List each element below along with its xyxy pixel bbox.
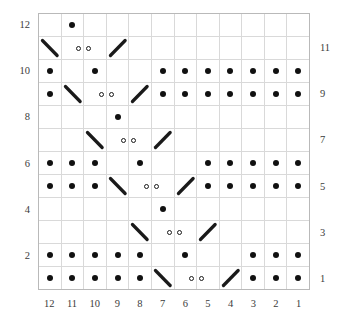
chart-cell-r12-c4[interactable]: [220, 14, 243, 37]
chart-cell-r4-c5[interactable]: [197, 198, 220, 221]
chart-cell-r5-c1[interactable]: [287, 175, 310, 198]
chart-cell-r6-c10[interactable]: [84, 152, 107, 175]
chart-cell-r4-c9[interactable]: [107, 198, 130, 221]
chart-cell-r2-c7[interactable]: [152, 244, 175, 267]
chart-cell-r9-c2[interactable]: [265, 83, 288, 106]
chart-cell-r8-c7[interactable]: [152, 106, 175, 129]
chart-cell-r12-c2[interactable]: [265, 14, 288, 37]
chart-cell-r11-c2[interactable]: [265, 37, 288, 60]
chart-cell-r10-c8[interactable]: [129, 60, 152, 83]
chart-cell-r3-c2[interactable]: [265, 221, 288, 244]
chart-cell-r12-c6[interactable]: [175, 14, 198, 37]
chart-cell-r4-c12[interactable]: [39, 198, 62, 221]
chart-cell-r8-c10[interactable]: [84, 106, 107, 129]
chart-cell-r9-c4[interactable]: [220, 83, 243, 106]
chart-cell-r10-c7[interactable]: [152, 60, 175, 83]
chart-cell-r7-c1[interactable]: [287, 129, 310, 152]
chart-cell-r6-c3[interactable]: [242, 152, 265, 175]
chart-cell-r9-c9[interactable]: [107, 83, 130, 106]
chart-cell-r4-c7[interactable]: [152, 198, 175, 221]
chart-cell-r11-c3[interactable]: [242, 37, 265, 60]
chart-cell-r6-c5[interactable]: [197, 152, 220, 175]
chart-cell-r11-c8[interactable]: [129, 37, 152, 60]
chart-cell-r9-c10[interactable]: [84, 83, 107, 106]
chart-cell-r3-c8[interactable]: [129, 221, 152, 244]
chart-cell-r6-c11[interactable]: [62, 152, 85, 175]
chart-cell-r10-c11[interactable]: [62, 60, 85, 83]
chart-cell-r9-c8[interactable]: [129, 83, 152, 106]
chart-cell-r5-c2[interactable]: [265, 175, 288, 198]
chart-cell-r5-c10[interactable]: [84, 175, 107, 198]
chart-cell-r5-c7[interactable]: [152, 175, 175, 198]
chart-cell-r8-c1[interactable]: [287, 106, 310, 129]
chart-cell-r8-c9[interactable]: [107, 106, 130, 129]
chart-cell-r10-c5[interactable]: [197, 60, 220, 83]
chart-cell-r3-c11[interactable]: [62, 221, 85, 244]
chart-cell-r11-c5[interactable]: [197, 37, 220, 60]
chart-cell-r11-c9[interactable]: [107, 37, 130, 60]
chart-cell-r9-c12[interactable]: [39, 83, 62, 106]
chart-cell-r5-c3[interactable]: [242, 175, 265, 198]
chart-cell-r1-c5[interactable]: [197, 267, 220, 290]
chart-cell-r2-c11[interactable]: [62, 244, 85, 267]
chart-cell-r2-c12[interactable]: [39, 244, 62, 267]
chart-cell-r7-c4[interactable]: [220, 129, 243, 152]
chart-cell-r8-c12[interactable]: [39, 106, 62, 129]
chart-cell-r1-c8[interactable]: [129, 267, 152, 290]
chart-cell-r4-c4[interactable]: [220, 198, 243, 221]
chart-cell-r2-c8[interactable]: [129, 244, 152, 267]
chart-cell-r7-c8[interactable]: [129, 129, 152, 152]
chart-cell-r6-c6[interactable]: [175, 152, 198, 175]
chart-cell-r12-c7[interactable]: [152, 14, 175, 37]
chart-cell-r4-c2[interactable]: [265, 198, 288, 221]
chart-cell-r5-c12[interactable]: [39, 175, 62, 198]
chart-cell-r7-c5[interactable]: [197, 129, 220, 152]
chart-cell-r1-c12[interactable]: [39, 267, 62, 290]
chart-cell-r9-c7[interactable]: [152, 83, 175, 106]
chart-cell-r3-c3[interactable]: [242, 221, 265, 244]
chart-cell-r12-c9[interactable]: [107, 14, 130, 37]
chart-cell-r10-c6[interactable]: [175, 60, 198, 83]
chart-cell-r12-c10[interactable]: [84, 14, 107, 37]
chart-cell-r11-c12[interactable]: [39, 37, 62, 60]
chart-cell-r1-c4[interactable]: [220, 267, 243, 290]
chart-cell-r9-c5[interactable]: [197, 83, 220, 106]
chart-cell-r2-c5[interactable]: [197, 244, 220, 267]
chart-cell-r8-c6[interactable]: [175, 106, 198, 129]
chart-cell-r3-c6[interactable]: [175, 221, 198, 244]
chart-cell-r6-c9[interactable]: [107, 152, 130, 175]
chart-cell-r2-c6[interactable]: [175, 244, 198, 267]
chart-cell-r12-c8[interactable]: [129, 14, 152, 37]
chart-cell-r7-c7[interactable]: [152, 129, 175, 152]
chart-cell-r1-c11[interactable]: [62, 267, 85, 290]
chart-cell-r8-c8[interactable]: [129, 106, 152, 129]
chart-cell-r2-c9[interactable]: [107, 244, 130, 267]
chart-cell-r11-c10[interactable]: [84, 37, 107, 60]
chart-cell-r10-c3[interactable]: [242, 60, 265, 83]
chart-cell-r5-c6[interactable]: [175, 175, 198, 198]
chart-cell-r9-c11[interactable]: [62, 83, 85, 106]
chart-cell-r7-c3[interactable]: [242, 129, 265, 152]
chart-cell-r8-c5[interactable]: [197, 106, 220, 129]
chart-cell-r8-c2[interactable]: [265, 106, 288, 129]
chart-cell-r4-c8[interactable]: [129, 198, 152, 221]
chart-cell-r4-c10[interactable]: [84, 198, 107, 221]
chart-cell-r7-c6[interactable]: [175, 129, 198, 152]
chart-cell-r2-c1[interactable]: [287, 244, 310, 267]
chart-cell-r6-c12[interactable]: [39, 152, 62, 175]
chart-cell-r7-c11[interactable]: [62, 129, 85, 152]
chart-cell-r10-c10[interactable]: [84, 60, 107, 83]
chart-cell-r10-c1[interactable]: [287, 60, 310, 83]
chart-cell-r9-c3[interactable]: [242, 83, 265, 106]
chart-cell-r8-c3[interactable]: [242, 106, 265, 129]
chart-cell-r7-c2[interactable]: [265, 129, 288, 152]
chart-cell-r3-c12[interactable]: [39, 221, 62, 244]
chart-cell-r11-c1[interactable]: [287, 37, 310, 60]
chart-cell-r6-c4[interactable]: [220, 152, 243, 175]
chart-cell-r3-c1[interactable]: [287, 221, 310, 244]
chart-cell-r11-c6[interactable]: [175, 37, 198, 60]
chart-cell-r1-c2[interactable]: [265, 267, 288, 290]
chart-cell-r7-c12[interactable]: [39, 129, 62, 152]
chart-cell-r12-c12[interactable]: [39, 14, 62, 37]
chart-cell-r12-c11[interactable]: [62, 14, 85, 37]
